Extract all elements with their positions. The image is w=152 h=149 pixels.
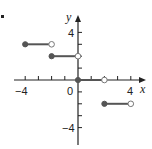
open-endpoint-icon [102, 77, 108, 83]
open-endpoint-icon [75, 53, 81, 59]
step-segment-2 [49, 53, 81, 59]
y-tick-label-neg4: −4 [62, 122, 75, 134]
figure-marker [1, 15, 4, 18]
closed-endpoint-icon [102, 101, 107, 106]
open-endpoint-icon [49, 42, 55, 48]
x-tick-label-neg4: −4 [15, 85, 28, 97]
closed-endpoint-icon [23, 42, 28, 47]
x-axis-label: x [139, 82, 146, 96]
step-function-chart: y x −4 0 4 4 −4 [0, 0, 152, 149]
y-axis-label: y [65, 10, 72, 24]
y-tick-label-4: 4 [68, 27, 74, 39]
closed-endpoint-icon [75, 77, 80, 82]
y-axis-arrow-icon [75, 15, 81, 22]
step-segment-4 [102, 101, 134, 107]
x-tick-label-4: 4 [127, 85, 133, 97]
closed-endpoint-icon [49, 54, 54, 59]
step-segment-1 [23, 42, 55, 48]
x-tick-label-0: 0 [67, 85, 73, 97]
open-endpoint-icon [128, 101, 134, 107]
